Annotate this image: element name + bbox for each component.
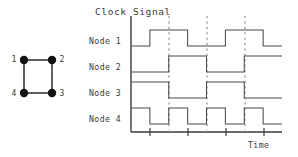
graph-node-3 (48, 89, 56, 97)
graph-node-2 (48, 56, 56, 64)
chart-title: Clock Signal (95, 6, 171, 17)
x-axis-label: Time (248, 140, 269, 150)
graph-node-label-4: 4 (12, 89, 17, 98)
graph-node-1 (20, 56, 28, 64)
row-label-node-2: Node 2 (89, 62, 121, 72)
graph-node-label-3: 3 (60, 89, 65, 98)
waveform-node-4 (131, 108, 282, 124)
waveform-node-3 (131, 82, 282, 98)
row-label-node-1: Node 1 (89, 36, 121, 46)
row-label-node-3: Node 3 (89, 88, 121, 98)
clock-signal-figure: 1 2 3 4 Clock Signal Node 1 Node 2 Node … (0, 0, 298, 157)
row-label-node-4: Node 4 (89, 114, 121, 124)
square-graph-diagram: 1 2 3 4 (12, 55, 65, 98)
graph-node-4 (20, 89, 28, 97)
waveform-node-1 (131, 30, 282, 46)
graph-node-label-1: 1 (12, 55, 17, 64)
waveform-node-2 (131, 56, 282, 72)
figure-canvas: 1 2 3 4 Clock Signal Node 1 Node 2 Node … (0, 0, 298, 157)
graph-node-label-2: 2 (60, 55, 65, 64)
